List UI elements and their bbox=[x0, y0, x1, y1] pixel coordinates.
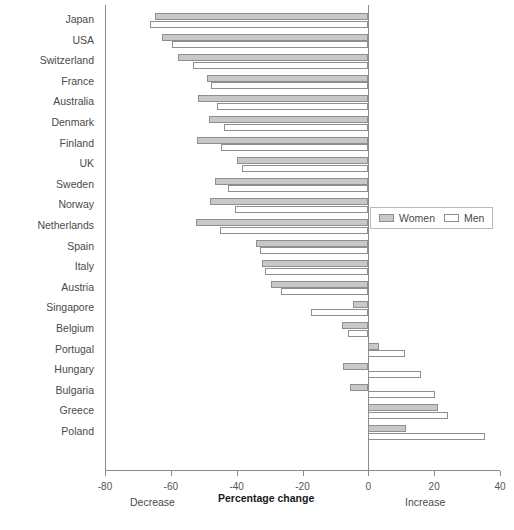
bar-men bbox=[242, 165, 369, 172]
bar-women bbox=[353, 301, 368, 308]
x-tick-label: 40 bbox=[494, 481, 505, 492]
x-tick bbox=[105, 471, 106, 476]
bar-men bbox=[221, 144, 368, 151]
plot-area: -80-60-40-2002040 bbox=[105, 5, 500, 471]
bar-men bbox=[348, 330, 368, 337]
bar-men bbox=[368, 412, 447, 419]
category-label: Norway bbox=[58, 199, 94, 210]
category-label: Greece bbox=[60, 405, 94, 416]
bar-men bbox=[228, 185, 368, 192]
category-label: Austria bbox=[61, 282, 94, 293]
x-tick-label: -80 bbox=[98, 481, 112, 492]
category-label: UK bbox=[79, 158, 94, 169]
x-tick-label: 20 bbox=[429, 481, 440, 492]
x-tick bbox=[237, 471, 238, 476]
category-label: Japan bbox=[65, 14, 94, 25]
bar-women bbox=[197, 137, 368, 144]
bar-women bbox=[196, 219, 368, 226]
x-tick-label: 0 bbox=[366, 481, 372, 492]
bar-women bbox=[271, 281, 368, 288]
bar-women bbox=[155, 13, 368, 20]
bar-men bbox=[368, 433, 485, 440]
bar-women bbox=[215, 178, 368, 185]
bar-men bbox=[217, 103, 368, 110]
bar-women bbox=[350, 384, 369, 391]
category-label: Bulgaria bbox=[55, 385, 94, 396]
category-label: Hungary bbox=[54, 364, 94, 375]
x-tick bbox=[500, 471, 501, 476]
x-tick bbox=[434, 471, 435, 476]
category-label: Netherlands bbox=[37, 220, 94, 231]
zero-reference-line bbox=[368, 5, 369, 471]
bar-women bbox=[262, 260, 368, 267]
bar-women bbox=[209, 116, 368, 123]
category-label: Sweden bbox=[56, 179, 94, 190]
legend-label-women: Women bbox=[399, 212, 435, 224]
bar-men bbox=[224, 124, 369, 131]
category-label: Poland bbox=[61, 426, 94, 437]
bar-men bbox=[260, 247, 368, 254]
bar-men bbox=[281, 288, 369, 295]
bar-women bbox=[210, 198, 368, 205]
grouped-bar-chart: JapanUSASwitzerlandFranceAustraliaDenmar… bbox=[0, 0, 514, 530]
x-tick-label: -20 bbox=[295, 481, 309, 492]
bar-women bbox=[237, 157, 369, 164]
bar-women bbox=[368, 343, 378, 350]
bar-women bbox=[368, 425, 406, 432]
bar-men bbox=[211, 82, 368, 89]
bar-men bbox=[220, 227, 368, 234]
x-tick-label: -40 bbox=[229, 481, 243, 492]
category-label: Spain bbox=[67, 241, 94, 252]
legend-label-men: Men bbox=[464, 212, 484, 224]
men-swatch-icon bbox=[444, 214, 459, 222]
bar-women bbox=[343, 363, 369, 370]
y-axis-line bbox=[105, 5, 106, 471]
x-tick bbox=[303, 471, 304, 476]
bar-men bbox=[265, 268, 368, 275]
category-label: Australia bbox=[53, 96, 94, 107]
category-label: Portugal bbox=[55, 344, 94, 355]
bar-men bbox=[311, 309, 368, 316]
category-label: Singapore bbox=[46, 302, 94, 313]
bar-men bbox=[172, 41, 368, 48]
bar-men bbox=[150, 21, 369, 28]
category-label: USA bbox=[72, 35, 94, 46]
bar-women bbox=[256, 240, 368, 247]
x-tick bbox=[171, 471, 172, 476]
category-label: Denmark bbox=[51, 117, 94, 128]
legend-item-men: Men bbox=[444, 212, 484, 224]
bar-men bbox=[368, 371, 421, 378]
category-label: Switzerland bbox=[40, 55, 94, 66]
bar-women bbox=[198, 95, 368, 102]
bar-men bbox=[368, 391, 435, 398]
legend-item-women: Women bbox=[379, 212, 435, 224]
bar-women bbox=[207, 75, 369, 82]
x-tick-label: -60 bbox=[164, 481, 178, 492]
bar-women bbox=[162, 34, 368, 41]
bar-women bbox=[368, 404, 437, 411]
x-tick bbox=[368, 471, 369, 476]
increase-caption: Increase bbox=[405, 496, 445, 508]
x-axis-title: Percentage change bbox=[218, 492, 314, 504]
bar-men bbox=[235, 206, 368, 213]
women-swatch-icon bbox=[379, 214, 394, 222]
bar-men bbox=[193, 62, 368, 69]
category-axis-labels: JapanUSASwitzerlandFranceAustraliaDenmar… bbox=[0, 0, 100, 470]
category-label: Italy bbox=[75, 261, 94, 272]
category-label: Finland bbox=[60, 138, 94, 149]
chart-legend: Women Men bbox=[370, 207, 493, 229]
category-label: Belgium bbox=[56, 323, 94, 334]
bar-women bbox=[178, 54, 368, 61]
bar-women bbox=[342, 322, 369, 329]
category-label: France bbox=[61, 76, 94, 87]
bar-men bbox=[368, 350, 404, 357]
decrease-caption: Decrease bbox=[130, 496, 175, 508]
